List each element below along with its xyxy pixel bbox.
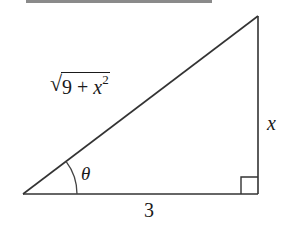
opposite-side-label: x [267,113,276,133]
adjacent-side-label: 3 [144,200,154,220]
right-angle-marker [241,177,258,194]
radicand-exponent: 2 [102,72,109,87]
angle-theta-label: θ [81,164,90,183]
hypotenuse-edge [23,16,258,194]
radicand: 9 + x2 [61,72,110,97]
sqrt-symbol: √ [50,73,62,95]
radicand-variable: x [93,76,102,98]
radicand-constant: 9 + [62,76,93,98]
hypotenuse-label: √ 9 + x2 [50,72,110,97]
right-triangle-diagram [0,0,298,230]
angle-arc [66,161,77,194]
